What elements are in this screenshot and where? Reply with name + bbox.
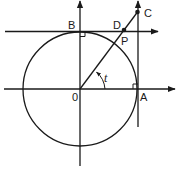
label-d: D (113, 19, 121, 31)
point-c (135, 10, 140, 15)
label-a: A (140, 91, 148, 103)
label-b: B (68, 19, 75, 31)
label-p: P (121, 35, 128, 47)
label-angle-t: t (104, 71, 108, 85)
terminal-ray (80, 12, 138, 89)
unit-circle-diagram: B D P C 0 A t (0, 0, 178, 179)
label-origin: 0 (72, 91, 78, 103)
point-d (122, 28, 127, 33)
label-c: C (144, 7, 152, 19)
